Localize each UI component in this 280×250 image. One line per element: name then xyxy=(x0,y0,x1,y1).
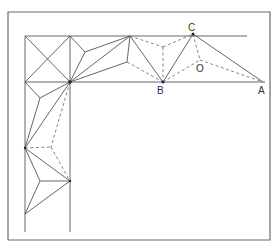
strip-boundaries xyxy=(25,36,265,232)
center-vertex xyxy=(68,80,72,84)
left-vertex xyxy=(24,147,26,149)
label-o: O xyxy=(196,63,204,74)
outer-frame xyxy=(8,12,270,240)
vertex-b xyxy=(162,81,165,84)
label-c: C xyxy=(188,22,195,33)
diagram-stage: C B O A xyxy=(0,0,280,250)
corner-square xyxy=(25,36,70,82)
left-strip-dashed-lines xyxy=(25,82,70,181)
folding-diagram: C B O A xyxy=(0,0,280,250)
label-a: A xyxy=(258,85,265,96)
top-strip-solid-lines xyxy=(70,34,263,82)
left-inner-vertex xyxy=(69,180,71,182)
label-b: B xyxy=(157,85,164,96)
top-strip-dashed-lines xyxy=(127,34,263,82)
vertices xyxy=(24,33,195,183)
